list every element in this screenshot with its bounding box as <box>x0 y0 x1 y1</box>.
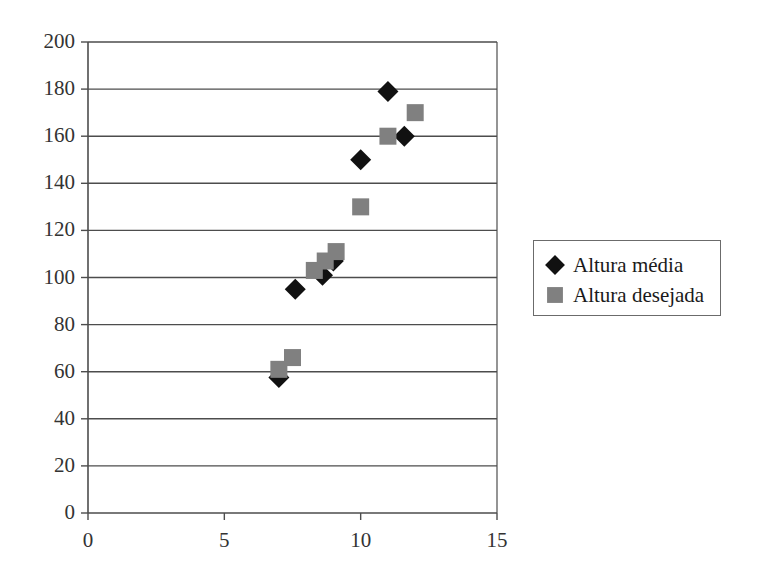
x-tick-label: 5 <box>194 530 254 551</box>
y-tick-label: 20 <box>54 455 75 476</box>
y-tick-label: 100 <box>44 267 76 288</box>
data-point-square <box>328 243 345 260</box>
legend-label-altura-media: Altura média <box>573 255 683 276</box>
legend-label-altura-desejada: Altura desejada <box>573 285 704 306</box>
x-axis-ticks <box>88 513 497 520</box>
data-point-square <box>352 198 369 215</box>
y-tick-label: 0 <box>65 502 76 523</box>
data-point-square <box>284 349 301 366</box>
chart-legend: Altura média Altura desejada <box>533 240 721 316</box>
y-tick-label: 120 <box>44 219 76 240</box>
diamond-marker-icon <box>545 255 565 275</box>
square-marker-icon <box>547 287 563 303</box>
series-altura-desejada-points <box>270 104 423 378</box>
data-point-square <box>379 128 396 145</box>
y-tick-label: 200 <box>44 31 76 52</box>
y-axis-ticks <box>81 42 88 513</box>
data-point-diamond <box>350 149 371 170</box>
gridlines <box>88 42 497 466</box>
data-point-square <box>407 104 424 121</box>
x-tick-label: 10 <box>331 530 391 551</box>
y-tick-label: 80 <box>54 314 75 335</box>
y-tick-label: 140 <box>44 172 76 193</box>
x-tick-label: 15 <box>467 530 527 551</box>
data-point-diamond <box>285 279 306 300</box>
x-tick-label: 0 <box>58 530 118 551</box>
y-tick-label: 160 <box>44 125 76 146</box>
data-point-diamond <box>377 81 398 102</box>
series-altura-media-points <box>268 81 414 388</box>
legend-entry-altura-media: Altura média <box>546 252 683 278</box>
scatter-chart: 020406080100120140160180200 051015 Altur… <box>0 0 761 583</box>
data-point-diamond <box>394 126 415 147</box>
y-tick-label: 40 <box>54 408 75 429</box>
legend-entry-altura-desejada: Altura desejada <box>546 282 704 308</box>
y-tick-label: 180 <box>44 78 76 99</box>
y-tick-label: 60 <box>54 361 75 382</box>
